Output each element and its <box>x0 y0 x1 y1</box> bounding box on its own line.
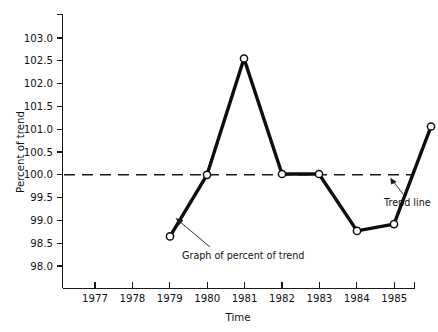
x-axis-title: Time <box>225 312 251 323</box>
x-tick-label-1978: 1978 <box>119 293 145 304</box>
percent-of-trend-line-chart: 103.0 102.5 102.0 101.5 101.0 100.5 100.… <box>0 0 438 332</box>
y-tick-label-98-0: 98.0 <box>30 261 53 272</box>
chart-figure: 103.0 102.5 102.0 101.5 101.0 100.5 100.… <box>0 0 438 332</box>
y-tick-label-101-0: 101.0 <box>24 124 53 135</box>
y-tick-label-103-0: 103.0 <box>24 33 53 44</box>
y-tick-label-98-5: 98.5 <box>30 238 53 249</box>
x-tick-label-1982: 1982 <box>269 293 295 304</box>
series-annotation-label: Graph of percent of trend <box>182 250 304 261</box>
y-tick-label-99-5: 99.5 <box>30 192 53 203</box>
data-point-1979 <box>166 233 173 240</box>
y-tick-label-100-0: 100.0 <box>24 169 53 180</box>
y-tick-label-99-0: 99.0 <box>30 215 53 226</box>
data-point-1981 <box>240 55 247 62</box>
y-tick-label-102-5: 102.5 <box>24 55 53 66</box>
x-tick-label-1984: 1984 <box>344 293 370 304</box>
data-point-1986 <box>427 123 434 130</box>
data-point-1982 <box>278 170 285 177</box>
x-tick-label-1983: 1983 <box>306 293 332 304</box>
chart-background <box>0 0 438 332</box>
x-tick-label-1979: 1979 <box>157 293 183 304</box>
data-point-1980 <box>203 171 210 178</box>
y-tick-label-101-5: 101.5 <box>24 101 53 112</box>
y-axis-title: Percent of trend <box>15 111 26 193</box>
x-tick-label-1985: 1985 <box>381 293 407 304</box>
y-tick-label-102-0: 102.0 <box>24 78 53 89</box>
x-tick-label-1981: 1981 <box>232 293 258 304</box>
trend-annotation-label: Trend line <box>383 197 431 208</box>
data-point-1983 <box>315 170 322 177</box>
data-point-1984 <box>353 227 360 234</box>
x-tick-label-1980: 1980 <box>194 293 220 304</box>
y-tick-label-100-5: 100.5 <box>24 147 53 158</box>
x-tick-label-1977: 1977 <box>82 293 108 304</box>
data-point-1985 <box>390 221 397 228</box>
